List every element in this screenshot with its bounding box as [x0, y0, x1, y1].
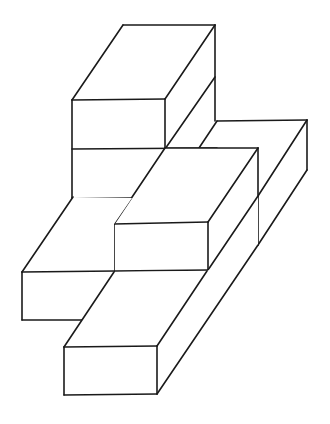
block-structure-figure — [0, 0, 330, 424]
